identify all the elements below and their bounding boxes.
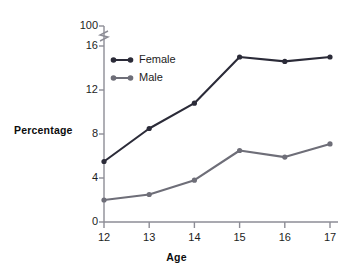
x-tick-label: 14 bbox=[174, 231, 214, 243]
x-tick-label: 12 bbox=[84, 231, 124, 243]
legend-label-male: Male bbox=[139, 71, 163, 83]
line-chart: Percentage Age 0481216100 121314151617 F… bbox=[0, 0, 353, 274]
series-group bbox=[101, 54, 332, 202]
axis-group bbox=[99, 26, 338, 228]
y-tick-label: 16 bbox=[56, 39, 98, 51]
x-tick-label: 15 bbox=[220, 231, 260, 243]
legend-marks-group bbox=[111, 57, 134, 81]
y-tick-label: 8 bbox=[56, 127, 98, 139]
x-axis-title: Age bbox=[0, 251, 353, 263]
y-tick-label: 4 bbox=[56, 171, 98, 183]
x-tick-label: 17 bbox=[310, 231, 350, 243]
y-tick-label: 100 bbox=[56, 19, 98, 31]
x-tick-label: 13 bbox=[129, 231, 169, 243]
x-tick-label: 16 bbox=[265, 231, 305, 243]
y-tick-label: 12 bbox=[56, 83, 98, 95]
legend-label-female: Female bbox=[139, 53, 176, 65]
y-tick-label: 0 bbox=[56, 215, 98, 227]
